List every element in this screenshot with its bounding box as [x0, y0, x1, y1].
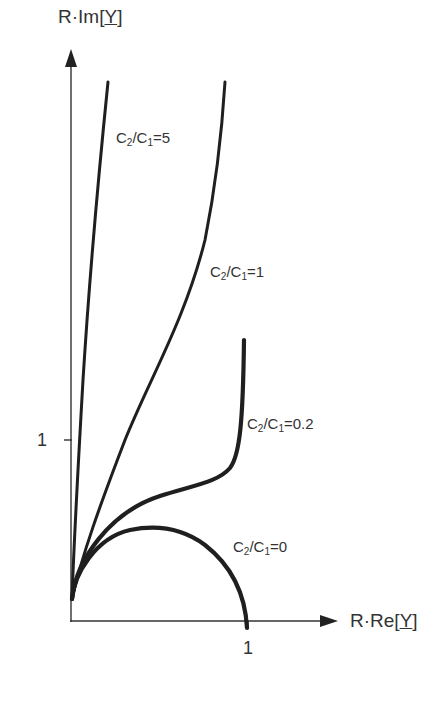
- y-axis-title-suffix: ]: [117, 6, 122, 27]
- x-axis-arrow-icon: [320, 615, 338, 627]
- x-axis-title: R·Re[Y]: [350, 611, 418, 630]
- label-c2-c1-1: C2/C1=1: [210, 264, 264, 279]
- y-axis-arrow-icon: [65, 49, 77, 67]
- y-axis-title-var: Y: [104, 6, 117, 27]
- label-text: /C: [132, 129, 147, 146]
- label-text: C: [233, 538, 244, 555]
- label-text: =0.2: [284, 415, 314, 432]
- label-text: /C: [226, 263, 241, 280]
- label-c2-c1-0-2: C2/C1=0.2: [247, 416, 314, 431]
- x-tick-label: 1: [243, 639, 253, 657]
- label-text: C: [247, 415, 258, 432]
- y-axis-title-prefix: R·Im[: [58, 6, 104, 27]
- label-text: =5: [153, 129, 170, 146]
- x-axis-title-var: Y: [400, 610, 413, 631]
- label-c2-c1-5: C2/C1=5: [116, 130, 170, 145]
- label-text: /C: [249, 538, 264, 555]
- curve-c2-c1-0-2: [72, 340, 244, 599]
- label-c2-c1-0: C2/C1=0: [233, 539, 287, 554]
- curve-c2-c1-1: [72, 82, 225, 599]
- y-axis-title: R·Im[Y]: [58, 7, 122, 26]
- y-tick-label: 1: [37, 431, 47, 449]
- x-axis-title-prefix: R·Re[: [350, 610, 400, 631]
- admittance-locus-diagram: R·Im[Y] R·Re[Y] 1 1 C2/C1=5 C2/C1=1 C2/C…: [0, 0, 439, 716]
- label-text: C: [210, 263, 221, 280]
- plot-canvas: [0, 0, 439, 716]
- x-axis-title-suffix: ]: [412, 610, 417, 631]
- label-text: =1: [247, 263, 264, 280]
- label-text: =0: [270, 538, 287, 555]
- curve-c2-c1-5: [72, 82, 108, 599]
- label-text: /C: [263, 415, 278, 432]
- label-text: C: [116, 129, 127, 146]
